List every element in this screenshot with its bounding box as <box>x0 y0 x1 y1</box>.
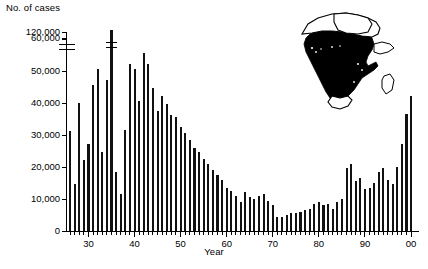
bar <box>83 160 85 231</box>
bar <box>405 114 407 231</box>
bar <box>263 194 265 231</box>
bar <box>143 53 145 231</box>
bar <box>304 210 306 231</box>
bar <box>115 172 117 231</box>
bar <box>341 199 343 231</box>
bar <box>290 213 292 231</box>
bar <box>203 159 205 231</box>
bar <box>240 202 242 231</box>
bar <box>410 96 412 231</box>
bar <box>318 202 320 231</box>
bar <box>221 180 223 231</box>
bar <box>147 64 149 231</box>
bar <box>387 180 389 231</box>
bar <box>359 178 361 231</box>
bar <box>161 96 163 231</box>
bar <box>101 152 103 231</box>
bar <box>249 197 251 231</box>
bar <box>198 152 200 231</box>
bar <box>152 88 154 231</box>
bar <box>378 172 380 231</box>
bar <box>309 209 311 231</box>
bar <box>69 131 71 231</box>
bar <box>332 209 334 231</box>
bar <box>401 144 403 231</box>
bar <box>382 168 384 231</box>
bar <box>110 30 112 231</box>
bar <box>327 204 329 231</box>
bar <box>124 130 126 231</box>
bar <box>267 201 269 231</box>
bar <box>396 167 398 231</box>
bar <box>369 188 371 231</box>
bar <box>322 205 324 231</box>
bar <box>235 196 237 231</box>
bar <box>286 215 288 231</box>
bar <box>299 212 301 231</box>
bar <box>276 217 278 231</box>
bar <box>253 199 255 231</box>
bar <box>295 213 297 231</box>
bar <box>138 101 140 231</box>
bar <box>373 183 375 231</box>
bar <box>244 192 246 231</box>
bar <box>364 189 366 231</box>
bar <box>392 184 394 231</box>
bar <box>226 188 228 231</box>
bar <box>336 202 338 231</box>
bar <box>74 184 76 231</box>
bar <box>78 103 80 231</box>
bar <box>272 205 274 231</box>
bar <box>189 140 191 231</box>
bar <box>230 191 232 231</box>
chart-figure: No. of cases Year 010,00020,00030,00040,… <box>0 0 428 269</box>
bar <box>166 104 168 231</box>
bar <box>92 85 94 231</box>
bar-value-break-marker <box>106 42 117 52</box>
bar <box>175 117 177 231</box>
africa-map-inset-icon <box>288 4 410 112</box>
bar <box>346 168 348 231</box>
bar <box>87 144 89 231</box>
bar <box>350 164 352 231</box>
bar <box>120 194 122 231</box>
bar <box>355 181 357 231</box>
bar <box>216 175 218 231</box>
bar <box>212 170 214 231</box>
bar <box>157 111 159 231</box>
bar <box>180 127 182 231</box>
bar <box>106 80 108 231</box>
bar <box>313 204 315 231</box>
bar <box>193 148 195 231</box>
bar <box>281 217 283 231</box>
bar <box>184 133 186 231</box>
bar <box>97 69 99 231</box>
bar <box>129 64 131 231</box>
bar <box>170 115 172 231</box>
bar <box>258 196 260 231</box>
bar <box>134 69 136 231</box>
bar <box>207 164 209 231</box>
